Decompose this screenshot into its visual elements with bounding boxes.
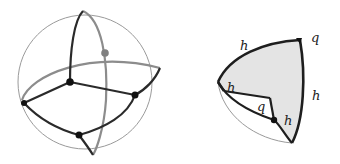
label-bottom-inner: h [284, 113, 292, 128]
right-region: h q h h q h [218, 30, 320, 143]
vertex-center [66, 78, 74, 86]
vertex-right [132, 92, 139, 99]
label-inner-angle: q [257, 99, 265, 114]
front-edge-left [24, 82, 70, 103]
front-edge-far-right [135, 68, 160, 95]
vertex-grey [101, 49, 109, 57]
lower-arc-left [24, 103, 79, 135]
front-meridian-arc [70, 11, 83, 82]
vertex-left [21, 100, 27, 106]
vertex-bottom [76, 132, 83, 139]
label-top-right-vertex: q [311, 30, 319, 45]
label-top-edge: h [240, 38, 248, 53]
front-edge-right [70, 82, 135, 95]
lower-arc-bottom [79, 135, 93, 155]
vertex-inner [271, 117, 277, 123]
label-right-edge: h [312, 88, 320, 103]
left-sphere [18, 11, 160, 155]
label-left-inner: h [227, 80, 235, 95]
diagram-canvas: h q h h q h [0, 0, 340, 164]
